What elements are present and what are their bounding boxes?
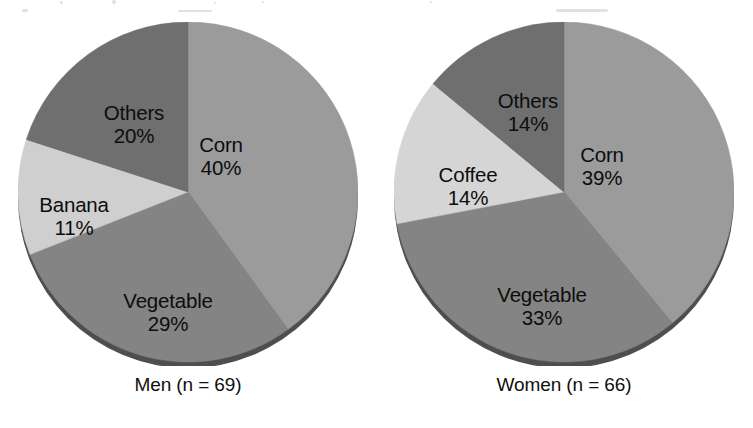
pie-slices-women xyxy=(394,22,734,362)
pie-svg-men xyxy=(18,22,358,366)
pie-slices-men xyxy=(18,22,358,362)
chart-caption-men: Men (n = 69) xyxy=(0,374,376,396)
pie-chart-women: Corn 39% Vegetable 33% Coffee 14% Others… xyxy=(376,0,752,428)
chart-caption-women: Women (n = 66) xyxy=(376,374,752,396)
pie-chart-figure: Corn 40% Vegetable 29% Banana 11% Others… xyxy=(0,0,753,428)
pie-graphic-men: Corn 40% Vegetable 29% Banana 11% Others… xyxy=(18,22,358,366)
pie-chart-men: Corn 40% Vegetable 29% Banana 11% Others… xyxy=(0,0,376,428)
pie-svg-women xyxy=(394,22,734,366)
pie-graphic-women: Corn 39% Vegetable 33% Coffee 14% Others… xyxy=(394,22,734,366)
